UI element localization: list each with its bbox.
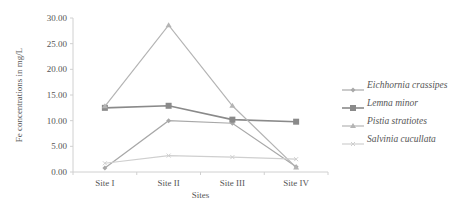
chart-legend: Eichhornia crassipes Lemna minor Pistia … <box>342 77 447 149</box>
series-pistia-stratiotes <box>102 22 299 169</box>
x-tick-label: Site III <box>220 178 245 188</box>
y-tick-label: 0.00 <box>51 167 67 177</box>
y-tick-label: 25.00 <box>47 39 68 49</box>
x-marker-icon <box>342 134 364 144</box>
diamond-marker-icon <box>342 80 364 90</box>
x-tick-label: Site I <box>95 178 114 188</box>
y-tick-label: 10.00 <box>47 116 68 126</box>
legend-item-eichhornia: Eichhornia crassipes <box>342 77 447 93</box>
legend-item-pistia: Pistia stratiotes <box>342 113 447 129</box>
y-tick-label: 5.00 <box>51 141 67 151</box>
series-eichhornia-crassipes <box>102 118 298 170</box>
y-tick-label: 15.00 <box>47 90 68 100</box>
legend-item-lemna: Lemna minor <box>342 95 447 111</box>
y-tick-label: 30.00 <box>47 13 68 23</box>
triangle-marker-icon <box>342 116 364 126</box>
x-axis-label: Sites <box>192 190 210 200</box>
x-tick-label: Site II <box>158 178 180 188</box>
legend-label: Salvinia cucullata <box>367 134 436 144</box>
legend-label: Eichhornia crassipes <box>367 80 447 90</box>
square-marker-icon <box>342 98 364 108</box>
x-tick-label: Site IV <box>283 178 309 188</box>
legend-item-salvinia: Salvinia cucullata <box>342 131 447 147</box>
y-axis-label: Fe concentrations in mg/L <box>14 48 24 143</box>
legend-label: Pistia stratiotes <box>367 116 427 126</box>
series-salvinia-cucullata <box>103 154 298 166</box>
legend-label: Lemna minor <box>367 98 418 108</box>
y-tick-label: 20.00 <box>47 64 68 74</box>
